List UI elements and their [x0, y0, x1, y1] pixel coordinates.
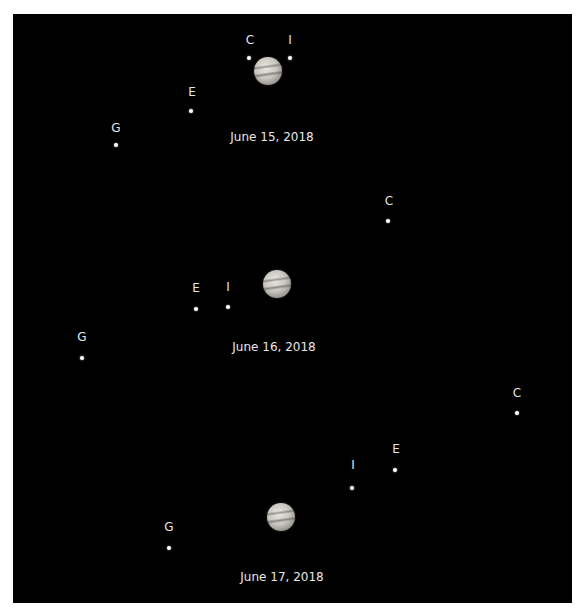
moon-dot-io — [350, 486, 354, 490]
moon-dot-callisto — [515, 411, 519, 415]
date-label: June 15, 2018 — [230, 130, 313, 144]
moon-dot-io — [288, 56, 292, 60]
moon-dot-ganymede — [167, 546, 171, 550]
moon-label-ganymede: G — [111, 122, 120, 134]
moon-label-callisto: C — [385, 195, 393, 207]
date-label: June 16, 2018 — [232, 340, 315, 354]
jupiter-planet — [263, 270, 291, 298]
moon-label-ganymede: G — [164, 521, 173, 533]
moon-dot-europa — [189, 109, 193, 113]
moon-dot-ganymede — [80, 356, 84, 360]
moon-label-io: I — [226, 281, 230, 293]
jupiter-planet — [267, 503, 295, 531]
moon-label-europa: E — [188, 86, 196, 98]
moon-label-io: I — [288, 34, 292, 46]
moon-dot-europa — [393, 468, 397, 472]
moon-label-callisto: C — [513, 387, 521, 399]
date-label: June 17, 2018 — [240, 570, 323, 584]
moon-label-callisto: C — [246, 34, 254, 46]
moon-label-europa: E — [192, 282, 200, 294]
moon-dot-io — [226, 305, 230, 309]
moon-label-europa: E — [392, 443, 400, 455]
jupiter-planet — [254, 57, 282, 85]
moon-dot-callisto — [247, 56, 251, 60]
moon-label-ganymede: G — [77, 331, 86, 343]
moon-dot-callisto — [386, 219, 390, 223]
moon-dot-ganymede — [114, 143, 118, 147]
moon-dot-europa — [194, 307, 198, 311]
moon-label-io: I — [351, 459, 355, 471]
